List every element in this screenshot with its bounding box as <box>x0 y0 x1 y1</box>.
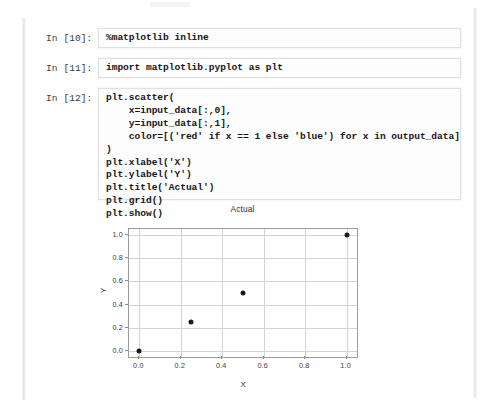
notebook-cell[interactable]: In [10]: %matplotlib inline <box>46 28 461 48</box>
chart-gridline-horizontal <box>129 328 357 329</box>
chart-y-tick-label: 1.0 <box>98 229 123 238</box>
chart-gridline-vertical <box>181 229 182 357</box>
chart-x-tick-label: 0.6 <box>257 361 268 370</box>
chart-data-point <box>137 349 142 354</box>
chart-x-tick <box>346 356 347 359</box>
chart-gridline-horizontal <box>129 258 357 259</box>
chart-gridline-vertical <box>347 229 348 357</box>
chart-gridline-horizontal <box>129 305 357 306</box>
page-top-artifact <box>150 2 190 7</box>
chart-data-point <box>241 291 246 296</box>
chart-gridline-vertical <box>139 229 140 357</box>
chart-x-tick <box>180 356 181 359</box>
page-right-edge <box>473 8 477 398</box>
chart-y-tick <box>125 350 128 351</box>
chart-y-tick <box>125 327 128 328</box>
cell-output-figure: Actual X Y 0.00.20.40.60.81.00.00.20.40.… <box>100 204 385 404</box>
chart-y-tick-label: 0.4 <box>98 299 123 308</box>
code-source: import matplotlib.pyplot as plt <box>106 62 453 75</box>
code-input-area[interactable]: %matplotlib inline <box>98 28 461 48</box>
cell-prompt: In [11]: <box>46 58 98 76</box>
chart-x-axis-label: X <box>128 380 358 389</box>
cell-prompt: In [12]: <box>46 88 98 106</box>
chart-title: Actual <box>100 204 385 214</box>
chart-gridline-horizontal <box>129 351 357 352</box>
chart-x-tick-label: 0.8 <box>299 361 310 370</box>
notebook-cell[interactable]: In [12]: plt.scatter( x=input_data[:,0],… <box>46 88 461 200</box>
code-source: plt.scatter( x=input_data[:,0], y=input_… <box>106 92 453 221</box>
page-left-edge <box>22 18 26 400</box>
chart-y-tick <box>125 234 128 235</box>
chart-y-tick-label: 0.2 <box>98 322 123 331</box>
chart-gridline-horizontal <box>129 235 357 236</box>
chart-x-tick <box>263 356 264 359</box>
chart-y-tick <box>125 257 128 258</box>
chart-y-tick-label: 0.6 <box>98 276 123 285</box>
chart-gridline-vertical <box>222 229 223 357</box>
chart-gridline-horizontal <box>129 281 357 282</box>
chart-y-axis-label: Y <box>99 288 108 293</box>
chart-gridline-vertical <box>305 229 306 357</box>
chart-y-tick <box>125 280 128 281</box>
chart-x-tick <box>304 356 305 359</box>
chart-x-tick-label: 0.0 <box>133 361 144 370</box>
chart-gridline-vertical <box>264 229 265 357</box>
chart-data-point <box>344 232 349 237</box>
chart-x-tick <box>221 356 222 359</box>
chart-x-tick <box>138 356 139 359</box>
notebook-cell[interactable]: In [11]: import matplotlib.pyplot as plt <box>46 58 461 78</box>
chart-y-tick-label: 0.8 <box>98 253 123 262</box>
code-input-area[interactable]: plt.scatter( x=input_data[:,0], y=input_… <box>98 88 461 200</box>
chart-x-tick-label: 1.0 <box>340 361 351 370</box>
chart-data-point <box>189 320 194 325</box>
chart-x-tick-label: 0.2 <box>175 361 186 370</box>
chart-x-tick-label: 0.4 <box>216 361 227 370</box>
cell-prompt: In [10]: <box>46 28 98 46</box>
code-input-area[interactable]: import matplotlib.pyplot as plt <box>98 58 461 78</box>
code-source: %matplotlib inline <box>106 32 453 45</box>
chart-y-tick <box>125 304 128 305</box>
chart-y-tick-label: 0.0 <box>98 346 123 355</box>
chart-plot-area <box>128 228 358 358</box>
